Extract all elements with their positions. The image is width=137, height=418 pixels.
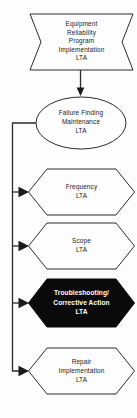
node-label-line: Implementation [59, 46, 105, 54]
node-scope-lta[interactable]: Scope LTA [29, 223, 135, 269]
node-repair-implementation-lta[interactable]: Repair Implementation LTA [29, 348, 135, 394]
node-label-line: LTA [75, 127, 87, 134]
node-label-line: LTA [76, 192, 88, 199]
node-label-line: LTA [76, 376, 88, 383]
connector-bus-to-frequency [13, 187, 30, 198]
connector-bus-to-scope [13, 241, 30, 252]
node-label-line: Troubleshooting/ [54, 289, 109, 297]
connector-bus-to-troubleshooting [13, 298, 30, 309]
flowchart-canvas: Equipment Reliability Program Implementa… [0, 0, 137, 418]
flowchart-svg: Equipment Reliability Program Implementa… [0, 0, 137, 418]
node-label-line: Frequency [66, 183, 98, 191]
node-label-line: Equipment [66, 20, 98, 28]
node-failure-finding-maintenance-lta[interactable]: Failure Finding Maintenance LTA [36, 97, 126, 149]
node-label-line: Scope [72, 237, 91, 245]
node-label-line: Implementation [59, 367, 105, 375]
connector-program-to-failure-finding [77, 70, 85, 96]
connector-bus-to-repair [19, 366, 30, 377]
node-equipment-reliability-program-implementation-lta[interactable]: Equipment Reliability Program Implementa… [30, 14, 133, 70]
node-label-line: LTA [75, 308, 87, 315]
node-label-line: Maintenance [62, 118, 101, 125]
node-label-line: Corrective Action [53, 299, 109, 306]
node-label-line: Repair [72, 358, 92, 366]
node-frequency-lta[interactable]: Frequency LTA [29, 169, 135, 215]
node-label-line: Failure Finding [59, 109, 104, 117]
node-label-line: LTA [76, 54, 88, 61]
node-label-line: LTA [76, 246, 88, 253]
node-label-line: Program [69, 37, 95, 45]
node-label-line: Reliability [67, 29, 97, 37]
node-troubleshooting-corrective-action-lta[interactable]: Troubleshooting/ Corrective Action LTA [29, 279, 135, 327]
